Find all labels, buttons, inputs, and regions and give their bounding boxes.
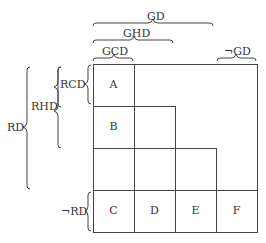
label-ghd: GHD [123,27,150,40]
label-rd: RD [7,121,24,134]
cell-e: E [175,190,216,232]
label-rhd: RHD [31,100,58,113]
label-rcd: RCD [60,78,86,91]
cell-f: F [216,190,257,232]
cell-c: C [93,190,134,232]
label-not-rd: ¬RD [61,205,87,218]
cell-d: D [134,190,175,232]
label-gd: GD [147,10,165,23]
label-not-gd: ¬GD [224,45,251,58]
cell-a: A [93,64,134,106]
cell-b: B [93,106,134,148]
label-gcd: GCD [102,45,128,58]
